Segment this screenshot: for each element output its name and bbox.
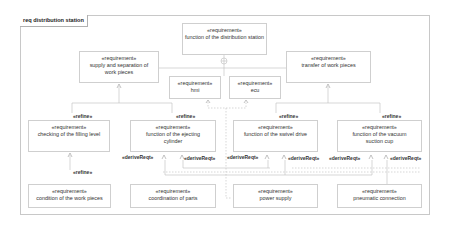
stereotype-label: «requirement» [29,124,109,131]
requirement-name: power supply [234,195,317,202]
requirement-function-distribution-station[interactable]: «requirement» function of the distributi… [182,23,267,55]
stereotype-label: «requirement» [170,80,220,87]
derive-label: «deriveReqt» [227,154,258,160]
derive-label: «deriveReqt» [329,155,360,161]
requirement-name: condition of the work pieces [29,195,110,202]
requirement-supply-separation[interactable]: «requirement» supply and separation of w… [79,51,159,83]
requirement-condition-work-pieces[interactable]: «requirement» condition of the work piec… [28,184,111,208]
stereotype-label: «requirement» [230,80,280,87]
stereotype-label: «requirement» [338,188,421,195]
stereotype-label: «requirement» [183,27,266,34]
derive-label: «deriveReqt» [288,155,319,161]
derive-label: «deriveReqt» [184,155,215,161]
requirement-name: pneumatic connection [338,195,421,202]
refine-label: «refine» [73,113,92,119]
refine-label: «refine» [176,113,195,119]
requirement-name: function of the swivel drive [234,131,317,138]
requirement-name: supply and separation of work pieces [80,62,158,76]
requirement-name: checking of the filling level [29,131,109,138]
derive-label: «deriveReqt» [390,155,421,161]
stereotype-label: «requirement» [131,124,215,131]
requirement-power-supply[interactable]: «requirement» power supply [233,184,318,208]
stereotype-label: «requirement» [29,188,110,195]
requirement-vacuum-suction-cup[interactable]: «requirement» function of the vacuum suc… [337,120,422,152]
requirement-hmi[interactable]: «requirement» hmi [169,76,221,99]
requirement-name: hmi [170,87,220,94]
requirement-swivel-drive[interactable]: «requirement» function of the swivel dri… [233,120,318,152]
requirement-name: function of the ejecting cylinder [131,131,215,145]
requirement-pneumatic-connection[interactable]: «requirement» pneumatic connection [337,184,422,208]
requirement-name: coordination of parts [131,195,215,202]
refine-label: «refine» [73,169,92,175]
requirement-ecu[interactable]: «requirement» ecu [229,76,281,99]
requirement-name: transfer of work pieces [287,62,370,69]
refine-label: «refine» [279,113,298,119]
stereotype-label: «requirement» [234,124,317,131]
requirement-name: ecu [230,87,280,94]
requirement-ejecting-cylinder[interactable]: «requirement» function of the ejecting c… [130,120,216,152]
requirement-coordination-parts[interactable]: «requirement» coordination of parts [130,184,216,208]
stereotype-label: «requirement» [80,55,158,62]
stereotype-label: «requirement» [234,188,317,195]
refine-label: «refine» [382,113,401,119]
requirement-transfer-work-pieces[interactable]: «requirement» transfer of work pieces [286,51,371,83]
requirement-name: function of the distribution station [183,34,266,41]
stereotype-label: «requirement» [131,188,215,195]
stereotype-label: «requirement» [287,55,370,62]
requirement-name: function of the vacuum suction cup [338,131,421,145]
stereotype-label: «requirement» [338,124,421,131]
requirement-checking-filling-level[interactable]: «requirement» checking of the filling le… [28,120,110,152]
derive-label: «deriveReqt» [122,154,153,160]
